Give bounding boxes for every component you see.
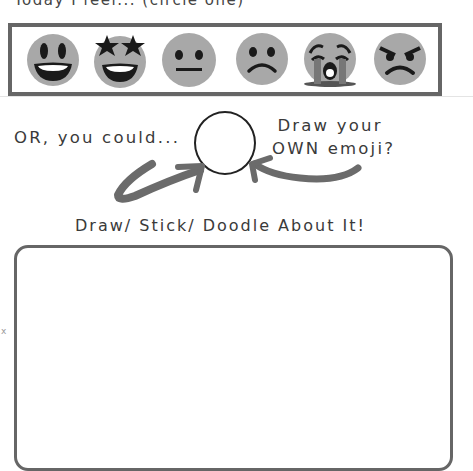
frowning-face-icon[interactable] (234, 31, 290, 89)
grinning-face-icon[interactable] (25, 31, 81, 89)
prompt-line-1: Draw your (272, 114, 388, 137)
cut-off-header-text: Today I feel... (circle one) (14, 0, 245, 9)
margin-mark: x (1, 326, 6, 336)
draw-own-emoji-circle[interactable] (194, 111, 256, 175)
draw-own-emoji-prompt: Draw your OWN emoji? (272, 114, 388, 160)
loudly-crying-face-icon[interactable] (302, 31, 358, 89)
doodle-section-title: Draw/ Stick/ Doodle About It! (75, 216, 366, 235)
or-you-could-text: OR, you could... (14, 128, 180, 147)
neutral-face-icon[interactable] (161, 31, 217, 89)
angry-face-icon[interactable] (372, 31, 428, 89)
prompt-line-2: OWN emoji? (272, 137, 388, 160)
left-curved-arrow-icon (118, 164, 202, 199)
section-divider (0, 96, 473, 97)
emoji-selection-frame (8, 23, 442, 96)
star-struck-face-icon[interactable] (92, 31, 148, 89)
right-curved-arrow-icon (252, 158, 358, 180)
doodle-drawing-area[interactable] (14, 245, 453, 471)
